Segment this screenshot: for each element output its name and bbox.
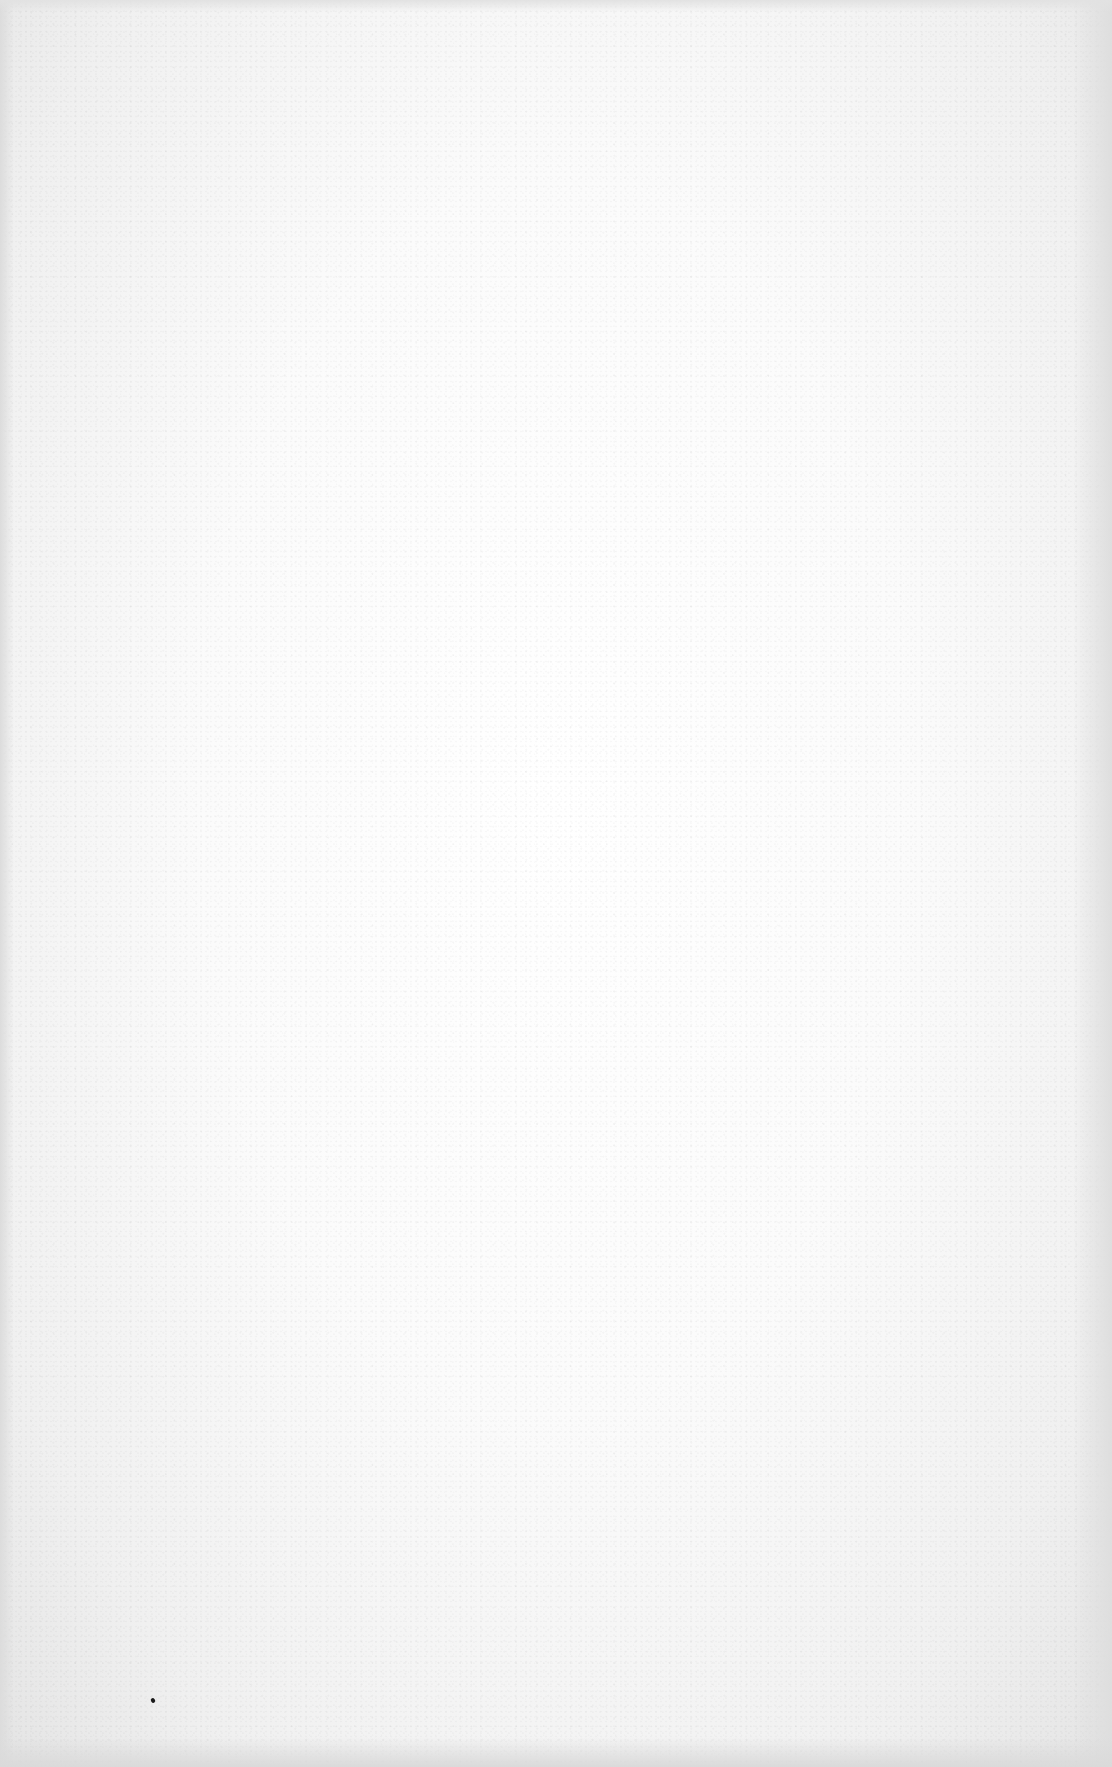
scanned-page — [0, 0, 1112, 1767]
page-edge-left — [0, 0, 14, 1767]
paper-grain — [0, 0, 1112, 1767]
page-edge-right — [1072, 0, 1112, 1767]
page-edge-top — [0, 0, 1112, 12]
page-edge-bottom — [0, 1737, 1112, 1767]
